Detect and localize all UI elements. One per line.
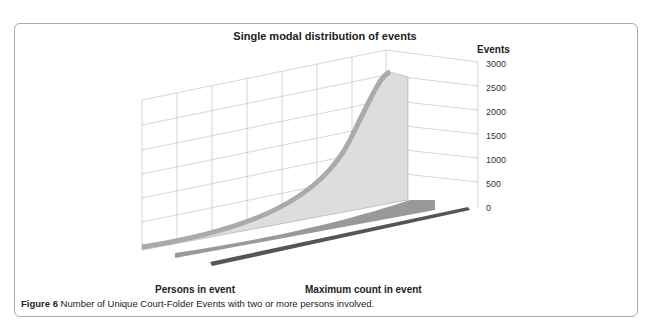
- chart-plot: [0, 0, 650, 332]
- x-axis-label: Maximum count in event: [305, 284, 422, 295]
- y-axis-label: Persons in event: [155, 284, 235, 295]
- figure-caption: Figure 6 Number of Unique Court-Folder E…: [21, 298, 374, 309]
- caption-text: Number of Unique Court-Folder Events wit…: [58, 298, 374, 309]
- caption-label: Figure 6: [21, 298, 58, 309]
